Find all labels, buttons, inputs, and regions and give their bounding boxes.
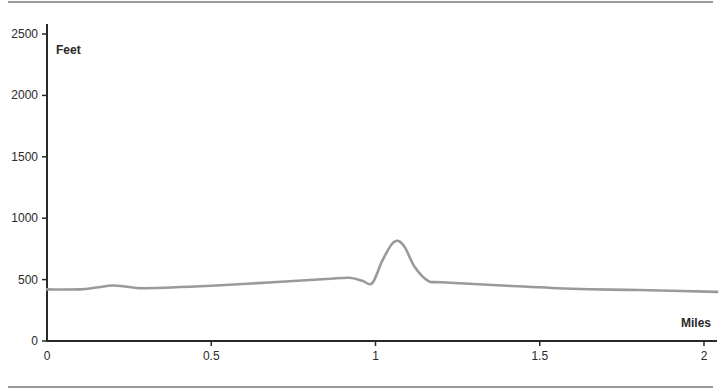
elevation-chart: 05001000150020002500 00.511.52 Feet Mile… [0,0,723,392]
y-tick-label: 500 [18,273,38,287]
y-axis-title: Feet [56,43,81,57]
y-axis: 05001000150020002500 [11,24,47,348]
x-tick-label: 2 [701,349,708,363]
x-tick-label: 1.5 [531,349,548,363]
x-tick-label: 1 [372,349,379,363]
y-tick-label: 2500 [11,27,38,41]
x-axis: 00.511.52 [44,341,717,363]
x-tick-label: 0 [44,349,51,363]
x-axis-title: Miles [681,316,711,330]
elevation-line [47,241,717,292]
y-tick-label: 1000 [11,211,38,225]
y-tick-label: 2000 [11,88,38,102]
y-tick-label: 0 [31,334,38,348]
x-tick-label: 0.5 [203,349,220,363]
y-tick-label: 1500 [11,150,38,164]
